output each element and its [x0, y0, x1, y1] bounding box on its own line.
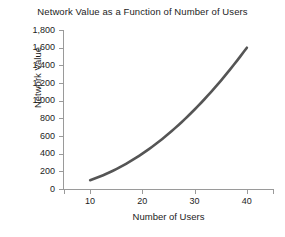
y-axis-line [63, 30, 64, 190]
x-tick-mark [247, 189, 248, 194]
y-tick-mark [59, 154, 64, 155]
x-tick-mark [195, 189, 196, 194]
y-tick-mark [59, 30, 64, 31]
x-tick-label: 20 [127, 196, 157, 206]
x-tick-label: 10 [75, 196, 105, 206]
chart-title: Network Value as a Function of Number of… [0, 6, 285, 17]
x-axis-label: Number of Users [64, 211, 273, 222]
y-tick-label: 400 [40, 149, 55, 158]
y-tick-mark [59, 118, 64, 119]
y-tick-mark [59, 101, 64, 102]
y-tick-mark [59, 171, 64, 172]
x-tick-mark [90, 189, 91, 194]
y-tick-mark [59, 83, 64, 84]
x-tick-label: 40 [232, 196, 262, 206]
y-tick-mark [59, 48, 64, 49]
x-tick-mark [142, 189, 143, 194]
y-tick-mark [59, 136, 64, 137]
y-tick-label: 600 [40, 132, 55, 141]
y-axis-label: Network Value [32, 38, 43, 118]
x-tick-mark [273, 189, 274, 194]
x-tick-mark [64, 189, 65, 194]
y-tick-label: 0 [50, 185, 55, 194]
chart-figure: Network Value as a Function of Number of… [0, 0, 285, 237]
series-line-network-value [90, 48, 247, 181]
y-tick-label: 200 [40, 167, 55, 176]
x-tick-label: 30 [180, 196, 210, 206]
y-tick-label: 1,800 [32, 26, 55, 35]
y-tick-mark [59, 65, 64, 66]
x-axis-line [63, 189, 274, 190]
